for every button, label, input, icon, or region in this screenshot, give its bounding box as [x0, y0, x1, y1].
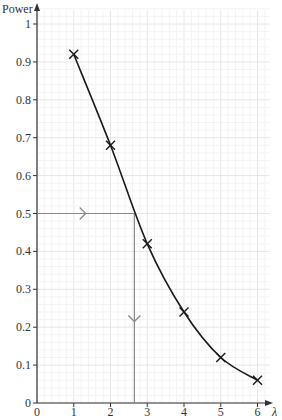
- y-tick-label: 0.4: [16, 244, 31, 258]
- y-tick-label: 0.7: [16, 131, 31, 145]
- y-tick-label: 0.8: [16, 93, 31, 107]
- y-tick-label: 0.1: [16, 358, 31, 372]
- y-tick-label: 1: [25, 17, 31, 31]
- power-curve-chart: 00.10.20.30.40.50.60.70.80.910123456Powe…: [0, 0, 282, 420]
- x-tick-label: 3: [144, 405, 150, 419]
- x-tick-label: 1: [71, 405, 77, 419]
- x-tick-label: 2: [108, 405, 114, 419]
- y-tick-label: 0: [25, 396, 31, 410]
- grid: [37, 9, 270, 403]
- x-tick-label: 6: [255, 405, 261, 419]
- y-tick-label: 0.2: [16, 320, 31, 334]
- axes: [33, 3, 273, 407]
- x-tick-label: 0: [34, 405, 40, 419]
- y-axis-arrow-icon: [34, 3, 40, 11]
- y-tick-label: 0.9: [16, 55, 31, 69]
- x-tick-label: 4: [181, 405, 187, 419]
- y-tick-label: 0.3: [16, 282, 31, 296]
- y-axis-title: Power: [2, 2, 33, 16]
- x-axis-title: λ: [271, 405, 277, 419]
- y-tick-label: 0.5: [16, 207, 31, 221]
- x-tick-label: 5: [218, 405, 224, 419]
- power-curve: [74, 54, 258, 380]
- y-tick-label: 0.6: [16, 169, 31, 183]
